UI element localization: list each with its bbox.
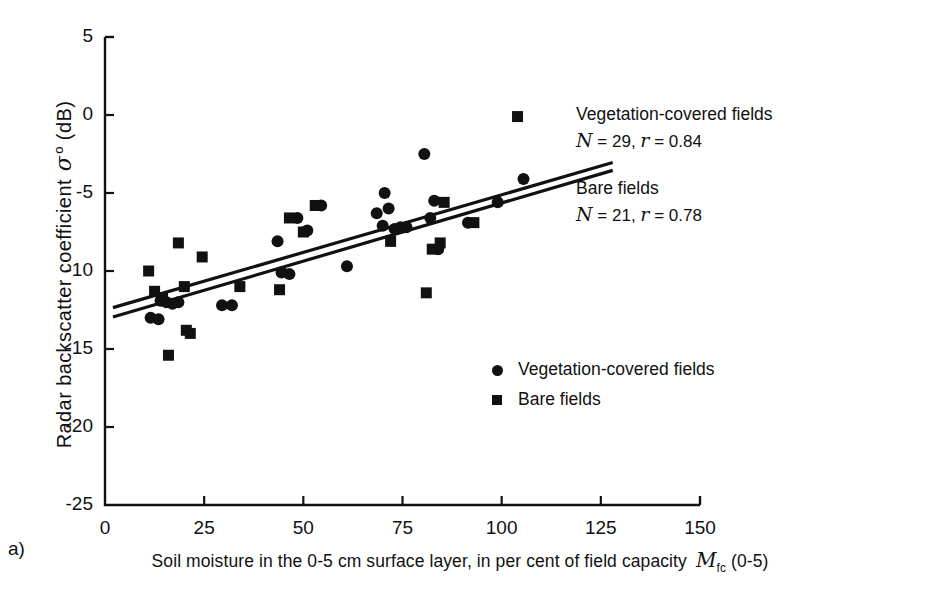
- legend-item-bare: Bare fields: [486, 385, 715, 415]
- y-tick-label: 5: [43, 25, 93, 47]
- y-tick-label: -15: [43, 337, 93, 359]
- scatter-plot: [0, 0, 945, 593]
- legend-item-vegetation: Vegetation-covered fields: [486, 355, 715, 385]
- y-tick-label: -5: [43, 181, 93, 203]
- annotation-vegetation: Vegetation-covered fields N = 29, r = 0.…: [576, 102, 773, 155]
- y-axis-title-prefix: Radar backscatter coefficient: [53, 173, 75, 448]
- data-point-square: [163, 350, 174, 361]
- r-value: = 0.78: [649, 206, 701, 225]
- x-tick-label: 150: [670, 517, 730, 539]
- data-point-square: [439, 197, 450, 208]
- data-point-circle: [272, 235, 284, 247]
- legend: Vegetation-covered fields Bare fields: [486, 355, 715, 415]
- x-tick-label: 50: [273, 517, 333, 539]
- x-axis-title: Soil moisture in the 0-5 cm surface laye…: [60, 548, 860, 575]
- data-point-circle: [379, 187, 391, 199]
- data-point-square: [512, 111, 523, 122]
- data-point-square: [310, 200, 321, 211]
- annotation-vegetation-stats: N = 29, r = 0.84: [576, 127, 773, 155]
- annotation-bare-stats: N = 21, r = 0.78: [576, 201, 702, 229]
- data-point-square: [421, 287, 432, 298]
- data-point-circle: [428, 195, 440, 207]
- x-axis-title-main: Soil moisture in the 0-5 cm surface laye…: [152, 551, 692, 571]
- data-point-square: [435, 237, 446, 248]
- x-tick-label: 75: [373, 517, 433, 539]
- annotation-bare-title: Bare fields: [576, 176, 702, 201]
- filled-square-icon: [486, 395, 508, 405]
- r-value: = 0.84: [649, 132, 701, 151]
- data-point-circle: [418, 148, 430, 160]
- filled-circle-icon: [486, 365, 508, 376]
- m-variable: M: [692, 548, 717, 572]
- x-tick-label: 125: [571, 517, 631, 539]
- data-point-square: [185, 328, 196, 339]
- data-point-square: [143, 266, 154, 277]
- series-bare-fields: [143, 111, 523, 361]
- data-point-circle: [153, 313, 165, 325]
- annotation-bare: Bare fields N = 21, r = 0.78: [576, 176, 702, 229]
- sigma-symbol: σ: [51, 154, 76, 173]
- data-points: [143, 111, 529, 361]
- series-vegetation-covered: [145, 148, 530, 325]
- legend-label-bare: Bare fields: [518, 391, 601, 409]
- sigma-superscript: o: [51, 146, 66, 154]
- data-point-square: [274, 284, 285, 295]
- data-point-circle: [383, 203, 395, 215]
- panel-label: a): [8, 538, 25, 560]
- data-point-square: [157, 292, 168, 303]
- y-tick-label: -10: [43, 259, 93, 281]
- data-point-circle: [400, 221, 412, 233]
- data-point-circle: [492, 196, 504, 208]
- regression-lines: [113, 163, 613, 317]
- data-point-square: [234, 281, 245, 292]
- data-point-circle: [424, 212, 436, 224]
- data-point-circle: [283, 268, 295, 280]
- data-point-circle: [341, 260, 353, 272]
- data-point-circle: [226, 299, 238, 311]
- figure-panel: Radar backscatter coefficient σo (dB) So…: [0, 0, 945, 593]
- data-point-square: [197, 251, 208, 262]
- n-symbol: N: [576, 129, 593, 151]
- data-point-square: [385, 236, 396, 247]
- y-tick-label: -25: [43, 493, 93, 515]
- m-variable-subscript: fc: [716, 561, 726, 575]
- data-point-square: [468, 217, 479, 228]
- n-value: = 29,: [593, 132, 641, 151]
- data-point-circle: [517, 173, 529, 185]
- data-point-square: [298, 227, 309, 238]
- x-axis-title-tail: (0-5): [726, 551, 768, 571]
- data-point-square: [284, 212, 295, 223]
- y-tick-label: -20: [43, 415, 93, 437]
- data-point-square: [179, 281, 190, 292]
- n-value: = 21,: [593, 206, 641, 225]
- axis-ticks: [105, 115, 601, 505]
- x-tick-label: 0: [75, 517, 135, 539]
- x-tick-label: 100: [472, 517, 532, 539]
- data-point-circle: [377, 220, 389, 232]
- annotation-vegetation-title: Vegetation-covered fields: [576, 102, 773, 127]
- n-symbol: N: [576, 203, 593, 225]
- y-tick-label: 0: [43, 103, 93, 125]
- data-point-square: [173, 237, 184, 248]
- x-tick-label: 25: [174, 517, 234, 539]
- data-point-circle: [172, 296, 184, 308]
- legend-label-vegetation: Vegetation-covered fields: [518, 361, 715, 379]
- data-point-circle: [371, 207, 383, 219]
